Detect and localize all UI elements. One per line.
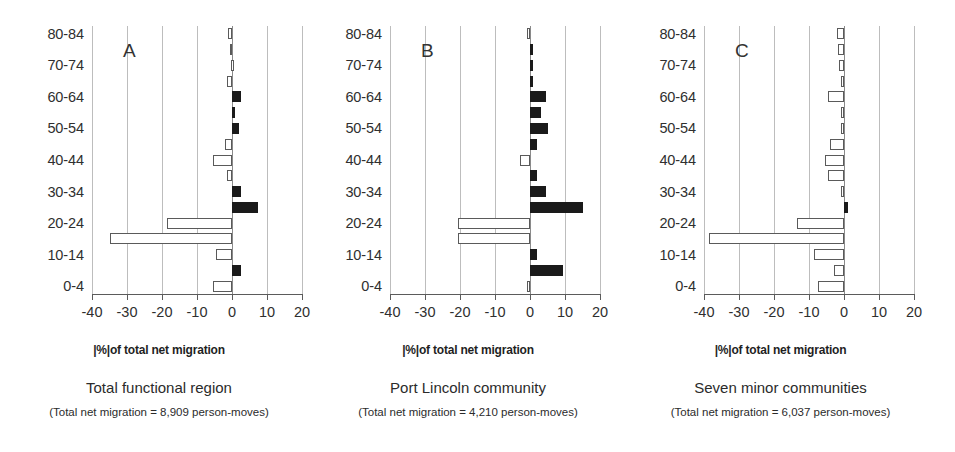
- x-tick-0: [530, 294, 531, 300]
- x-tick--10: [809, 294, 810, 300]
- bar-40-44: [825, 155, 844, 166]
- bar-50-54: [232, 123, 239, 134]
- panel-c-x-tick-labels: -40-30-20-1001020: [704, 304, 914, 324]
- y-axis-label-60-64: 60-64: [345, 90, 382, 104]
- panel-c-caption: Seven minor communities (Total net migra…: [618, 378, 943, 420]
- x-tick-label-10: 10: [259, 304, 275, 320]
- x-tick-label-20: 20: [592, 304, 608, 320]
- y-axis-label-50-54: 50-54: [659, 121, 696, 135]
- y-axis-label-80-84: 80-84: [659, 27, 696, 41]
- gridline-10: [267, 26, 268, 294]
- gridline-20: [914, 26, 915, 294]
- y-axis-label-30-34: 30-34: [345, 185, 382, 199]
- bar-35-39: [530, 170, 537, 181]
- y-axis-label-60-64: 60-64: [47, 90, 84, 104]
- x-tick-label--30: -30: [117, 304, 138, 320]
- y-axis-label-80-84: 80-84: [345, 27, 382, 41]
- bar-55-59: [530, 107, 541, 118]
- y-axis-label-0-4: 0-4: [63, 279, 84, 293]
- panel-b-x-axis: [390, 294, 600, 295]
- panel-b-caption: Port Lincoln community (Total net migrat…: [318, 378, 618, 420]
- bar-10-14: [530, 249, 537, 260]
- panel-b: 0-410-1420-2430-3440-4450-5460-6470-7480…: [318, 0, 618, 452]
- x-axis-cap-20: [600, 294, 601, 300]
- bar-30-34: [841, 186, 844, 197]
- x-tick--20: [162, 294, 163, 300]
- bar-60-64: [232, 91, 241, 102]
- y-axis-label-20-24: 20-24: [47, 216, 84, 230]
- x-tick-label-10: 10: [871, 304, 887, 320]
- y-axis-label-20-24: 20-24: [659, 216, 696, 230]
- y-axis-label-40-44: 40-44: [47, 153, 84, 167]
- x-tick-0: [844, 294, 845, 300]
- bar-35-39: [227, 170, 232, 181]
- x-tick-label-0: 0: [228, 304, 236, 320]
- x-axis-cap--40: [704, 294, 705, 300]
- gridline-10: [565, 26, 566, 294]
- panel-b-y-axis-labels: 0-410-1420-2430-3440-4450-5460-6470-7480…: [318, 0, 386, 278]
- gridline-20: [600, 26, 601, 294]
- panel-a-plot: 0-410-1420-2430-3440-4450-5460-6470-7480…: [0, 0, 318, 300]
- y-axis-label-50-54: 50-54: [345, 121, 382, 135]
- bar-20-24: [167, 218, 232, 229]
- panel-c-x-axis: [704, 294, 914, 295]
- bar-40-44: [213, 155, 232, 166]
- bar-75-79: [530, 44, 533, 55]
- panel-a-plot-area: [92, 26, 302, 294]
- panel-b-x-tick-labels: -40-30-20-1001020: [390, 304, 600, 324]
- panel-c-plot: 0-410-1420-2430-3440-4450-5460-6470-7480…: [618, 0, 943, 300]
- panel-a-x-axis: [92, 294, 302, 295]
- panel-c-caption-subtitle: (Total net migration = 6,037 person-move…: [618, 404, 943, 420]
- y-axis-label-50-54: 50-54: [47, 121, 84, 135]
- bar-70-74: [839, 60, 844, 71]
- x-tick-10: [267, 294, 268, 300]
- bar-35-39: [828, 170, 844, 181]
- bar-20-24: [797, 218, 844, 229]
- x-tick-label-0: 0: [526, 304, 534, 320]
- x-tick-label--30: -30: [729, 304, 750, 320]
- bar-25-29: [530, 202, 583, 213]
- bar-15-19: [110, 233, 233, 244]
- panel-c-y-axis-labels: 0-410-1420-2430-3440-4450-5460-6470-7480…: [618, 0, 700, 278]
- bar-65-69: [530, 76, 533, 87]
- panel-b-plot-area: [390, 26, 600, 294]
- bar-75-79: [230, 44, 233, 55]
- x-tick-label--40: -40: [380, 304, 401, 320]
- x-tick-label--10: -10: [799, 304, 820, 320]
- panel-b-plot: 0-410-1420-2430-3440-4450-5460-6470-7480…: [318, 0, 618, 300]
- bar-70-74: [231, 60, 234, 71]
- bar-15-19: [709, 233, 844, 244]
- x-tick-label--40: -40: [694, 304, 715, 320]
- bar-50-54: [530, 123, 548, 134]
- x-tick-label--40: -40: [82, 304, 103, 320]
- y-axis-label-10-14: 10-14: [345, 248, 382, 262]
- panel-a-caption-subtitle: (Total net migration = 8,909 person-move…: [0, 404, 318, 420]
- gridline-20: [302, 26, 303, 294]
- gridline-0: [844, 26, 845, 294]
- panel-b-caption-subtitle: (Total net migration = 4,210 person-move…: [318, 404, 618, 420]
- gridline--40: [92, 26, 93, 294]
- y-axis-label-10-14: 10-14: [659, 248, 696, 262]
- x-tick-label--20: -20: [152, 304, 173, 320]
- y-axis-label-70-74: 70-74: [47, 58, 84, 72]
- y-axis-label-20-24: 20-24: [345, 216, 382, 230]
- x-tick-10: [565, 294, 566, 300]
- x-tick--30: [127, 294, 128, 300]
- x-tick-label--20: -20: [450, 304, 471, 320]
- x-axis-cap--40: [92, 294, 93, 300]
- y-axis-label-10-14: 10-14: [47, 248, 84, 262]
- bar-80-84: [228, 28, 232, 39]
- y-axis-label-30-34: 30-34: [47, 185, 84, 199]
- y-axis-label-30-34: 30-34: [659, 185, 696, 199]
- bar-50-54: [841, 123, 844, 134]
- bar-5-9: [834, 265, 845, 276]
- bar-40-44: [520, 155, 531, 166]
- bar-55-59: [232, 107, 235, 118]
- x-tick-label--20: -20: [764, 304, 785, 320]
- bar-45-49: [830, 139, 844, 150]
- bar-20-24: [458, 218, 530, 229]
- x-tick-label-20: 20: [906, 304, 922, 320]
- x-tick--10: [197, 294, 198, 300]
- bar-60-64: [828, 91, 844, 102]
- bar-30-34: [232, 186, 241, 197]
